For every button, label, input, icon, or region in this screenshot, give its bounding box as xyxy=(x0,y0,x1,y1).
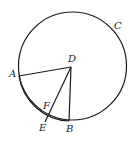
label-a: A xyxy=(8,68,16,79)
segment-da xyxy=(19,67,71,76)
label-f: F xyxy=(42,100,51,111)
label-b: B xyxy=(65,123,73,134)
segment-db xyxy=(69,67,71,121)
segment-de xyxy=(45,67,71,122)
label-c: C xyxy=(114,20,122,31)
circle-c xyxy=(19,12,127,120)
label-d: D xyxy=(67,53,76,64)
arc-ab xyxy=(19,76,69,121)
geometry-diagram: C D A F E B xyxy=(0,0,138,145)
label-e: E xyxy=(38,122,47,133)
